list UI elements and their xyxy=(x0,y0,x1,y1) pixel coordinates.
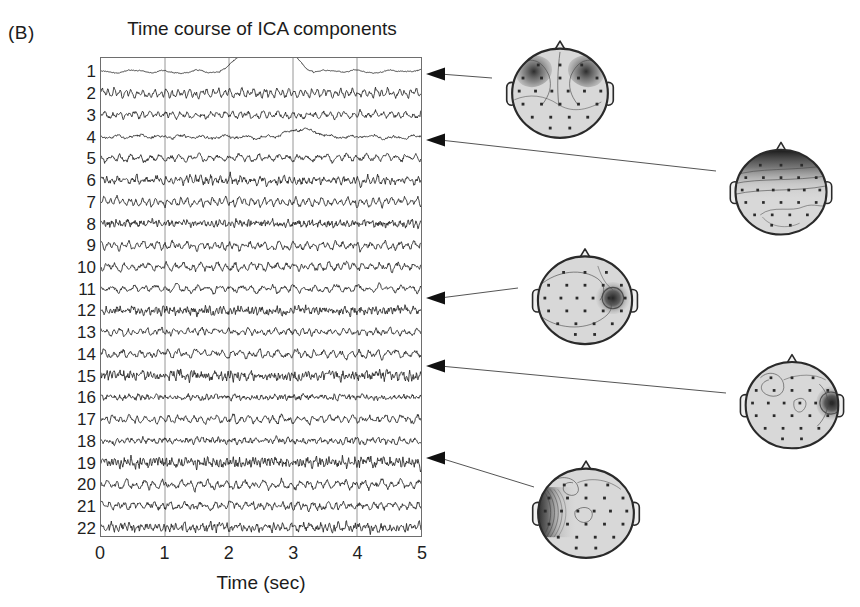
ica-component-trace xyxy=(101,283,421,295)
arrow-head xyxy=(426,292,445,305)
right-edge-temporal-scalp-map xyxy=(728,342,856,462)
arrow-to-component-15 xyxy=(426,360,726,394)
electrode-marker xyxy=(800,437,803,440)
arrow-line xyxy=(440,74,492,78)
electrode-marker xyxy=(580,64,583,67)
electrode-marker xyxy=(806,214,809,217)
electrode-marker xyxy=(800,427,803,430)
ica-component-trace xyxy=(101,128,421,140)
electrode-marker xyxy=(575,536,578,539)
ica-component-trace xyxy=(101,153,421,163)
component-number-label: 9 xyxy=(58,237,96,254)
component-number-label: 17 xyxy=(58,411,96,428)
electrode-marker xyxy=(575,547,578,550)
electrode-marker xyxy=(576,297,579,300)
x-axis-title: Time (sec) xyxy=(100,572,422,594)
electrode-marker xyxy=(620,284,623,287)
component-number-label: 22 xyxy=(58,519,96,536)
electrode-marker xyxy=(814,402,817,405)
electrode-marker xyxy=(826,389,829,392)
electrode-marker xyxy=(797,201,800,204)
electrode-marker xyxy=(549,127,552,130)
electrode-marker xyxy=(830,402,833,405)
electrode-marker xyxy=(773,414,776,417)
electrode-marker xyxy=(544,510,547,513)
electrode-marker xyxy=(586,116,589,119)
component-number-label: 8 xyxy=(58,215,96,232)
x-axis-tick-label: 0 xyxy=(95,543,105,564)
component-number-label: 6 xyxy=(58,172,96,189)
left-lateral-scalp-map xyxy=(520,448,652,572)
electrode-marker xyxy=(576,510,579,513)
electrode-marker xyxy=(585,497,588,500)
component-number-label: 1 xyxy=(58,63,96,80)
component-number-label: 2 xyxy=(58,85,96,102)
electrode-marker xyxy=(593,322,596,325)
electrode-marker xyxy=(559,64,562,67)
right-temporal-focal-scalp-map xyxy=(520,236,650,358)
electrode-marker xyxy=(817,427,820,430)
electrode-marker xyxy=(585,484,588,487)
electrode-marker xyxy=(791,414,794,417)
electrode-marker xyxy=(781,437,784,440)
electrode-marker xyxy=(788,214,791,217)
x-axis-tick-labels: 012345 xyxy=(100,543,422,567)
electrode-marker xyxy=(584,271,587,274)
electrode-marker xyxy=(791,376,794,379)
arrow-to-component-1 xyxy=(426,68,492,81)
x-axis-tick-label: 2 xyxy=(224,543,234,564)
electrode-marker xyxy=(620,310,623,313)
electrode-marker xyxy=(565,310,568,313)
component-number-label: 7 xyxy=(58,193,96,210)
component-number-label: 15 xyxy=(58,367,96,384)
component-number-label: 20 xyxy=(58,476,96,493)
electrode-marker xyxy=(577,103,580,106)
electrode-marker xyxy=(612,536,615,539)
electrode-marker xyxy=(741,189,744,192)
ica-component-trace xyxy=(101,172,421,188)
electrode-marker xyxy=(543,297,546,300)
arrow-head xyxy=(426,134,445,147)
electrode-marker xyxy=(815,201,818,204)
electrode-marker xyxy=(624,297,627,300)
electrode-marker xyxy=(764,427,767,430)
component-number-label: 10 xyxy=(58,259,96,276)
electrode-marker xyxy=(596,77,599,80)
electrode-marker xyxy=(751,402,754,405)
ica-component-trace xyxy=(101,261,421,273)
electrode-marker xyxy=(789,224,792,227)
electrode-marker xyxy=(584,284,587,287)
electrode-marker xyxy=(744,176,747,179)
electrode-marker xyxy=(583,90,586,93)
electrode-marker xyxy=(559,77,562,80)
component-number-label: 14 xyxy=(58,345,96,362)
electrode-marker xyxy=(593,333,596,336)
component-number-label: 13 xyxy=(58,324,96,341)
ica-component-trace xyxy=(101,393,421,401)
electrode-marker xyxy=(622,523,625,526)
electrode-marker xyxy=(606,484,609,487)
electrode-marker xyxy=(809,389,812,392)
ica-component-trace xyxy=(101,436,421,446)
electrode-marker xyxy=(756,189,759,192)
electrode-marker xyxy=(537,64,540,67)
electrode-marker xyxy=(603,497,606,500)
electrode-marker xyxy=(534,90,537,93)
electrode-marker xyxy=(563,484,566,487)
electrode-marker xyxy=(605,271,608,274)
arrow-head xyxy=(426,360,445,373)
ica-component-trace xyxy=(101,109,421,120)
ica-figure-panel: (B) Time course of ICA components 123456… xyxy=(0,0,860,607)
frontal-bilateral-scalp-map xyxy=(494,28,626,152)
electrode-marker xyxy=(602,310,605,313)
electrode-marker xyxy=(755,414,758,417)
component-number-label: 19 xyxy=(58,454,96,471)
electrode-marker xyxy=(759,164,762,167)
electrode-marker xyxy=(780,164,783,167)
electrode-marker xyxy=(566,523,569,526)
scalp-topography-svg xyxy=(520,448,652,572)
electrode-marker xyxy=(518,90,521,93)
component-number-label: 3 xyxy=(58,106,96,123)
electrode-marker xyxy=(772,189,775,192)
electrode-marker xyxy=(548,523,551,526)
